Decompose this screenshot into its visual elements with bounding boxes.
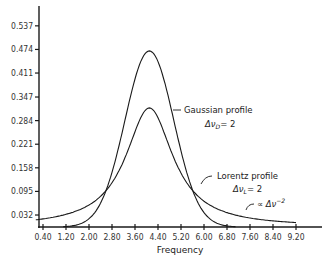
gaussian-label: Gaussian profile	[184, 105, 253, 115]
y-tick-label: 0.032	[11, 210, 33, 220]
tail-annotation: ∝ Δν−2	[246, 197, 285, 210]
x-tick-label: 2.00	[80, 232, 97, 242]
x-tick-label: 6.00	[195, 232, 212, 242]
x-tick-label: 6.80	[218, 232, 235, 242]
y-tick-label: 0.537	[11, 21, 33, 31]
axes	[38, 6, 322, 228]
y-tick-label: 0.284	[11, 116, 33, 126]
y-tick-label: 0.474	[11, 44, 33, 54]
x-tick-label: 3.60	[126, 232, 143, 242]
x-tick-label: 5.20	[172, 232, 189, 242]
x-tick-label: 9.20	[287, 232, 304, 242]
gaussian-annotation: Gaussian profile ΔνD= 2	[173, 105, 253, 130]
y-tick-label: 0.411	[11, 68, 33, 78]
x-tick-label: 0.40	[34, 232, 51, 242]
line-chart: 0.0320.0950.1580.2210.2840.3470.4110.474…	[0, 0, 334, 264]
y-tick-label: 0.221	[11, 139, 33, 149]
x-tick-label: 4.40	[149, 232, 166, 242]
lorentz-label: Lorentz profile	[217, 171, 278, 181]
gaussian-curve	[63, 51, 236, 227]
x-tick-label: 2.80	[103, 232, 120, 242]
y-tick-label: 0.158	[11, 163, 33, 173]
y-tick-group: 0.0320.0950.1580.2210.2840.3470.4110.474…	[11, 21, 39, 220]
x-tick-label: 8.40	[264, 232, 281, 242]
gaussian-width-label: ΔνD= 2	[204, 119, 235, 130]
y-tick-label: 0.095	[11, 186, 33, 196]
tail-leader-line	[246, 204, 254, 210]
tail-label: ∝ Δν−2	[257, 197, 285, 209]
x-axis-label: Frequency	[157, 245, 204, 255]
lorentz-annotation: Lorentz profile ΔνL= 2	[201, 171, 278, 195]
x-tick-label: 7.60	[241, 232, 258, 242]
y-tick-label: 0.347	[11, 92, 33, 102]
x-tick-label: 1.20	[57, 232, 74, 242]
lorentz-width-label: ΔνL= 2	[232, 184, 262, 195]
lorentz-leader-line	[201, 176, 212, 184]
